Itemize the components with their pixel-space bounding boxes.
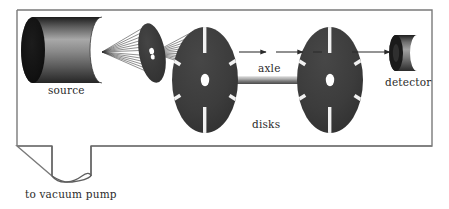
figure-root: source axle disks detector to vacuum pum… [0, 0, 449, 209]
label-disks: disks [252, 118, 280, 130]
detector-aperture [393, 44, 399, 62]
label-detector: detector [385, 76, 431, 88]
disk-far-hub [326, 74, 334, 86]
label-axle: axle [258, 62, 281, 74]
bowtie-crossover-lower [52, 173, 91, 182]
label-source: source [48, 84, 85, 96]
source-face [21, 17, 45, 83]
diagram-canvas [0, 0, 449, 209]
label-vacuum-pump: to vacuum pump [25, 188, 117, 200]
source-cylinder [21, 17, 102, 83]
disk-near-hub [201, 74, 209, 86]
